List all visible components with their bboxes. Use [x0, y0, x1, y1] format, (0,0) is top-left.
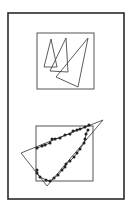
- triangle-3: [56, 38, 88, 87]
- large-triangle: [21, 120, 103, 186]
- path-dot: [76, 129, 79, 132]
- overlapping-triangles: [44, 38, 88, 87]
- path-dot: [83, 142, 86, 145]
- path-dot: [64, 166, 67, 169]
- path-dot: [73, 156, 76, 159]
- path-dot: [36, 147, 39, 150]
- path-dot: [72, 130, 75, 133]
- path-dot: [49, 142, 52, 145]
- path-dot: [54, 138, 57, 141]
- path-dot: [79, 128, 82, 131]
- path-dot: [79, 148, 82, 151]
- path-dot: [53, 177, 56, 180]
- triangle-1: [44, 39, 57, 67]
- path-dot: [36, 169, 39, 172]
- path-dot: [85, 133, 88, 136]
- lower-dotted-path: [37, 130, 88, 181]
- path-dot: [76, 152, 79, 155]
- path-dot: [61, 169, 64, 172]
- path-dot: [57, 174, 60, 177]
- path-dot: [51, 138, 54, 141]
- path-dot: [49, 180, 52, 183]
- path-dot: [45, 179, 48, 182]
- diagram-canvas: [0, 0, 137, 207]
- path-dot: [41, 145, 44, 148]
- dotted-path-points: [36, 124, 91, 183]
- path-dot: [84, 138, 87, 141]
- top-panel: [37, 33, 94, 89]
- path-dot: [36, 172, 39, 175]
- path-dot: [88, 124, 91, 127]
- path-dot: [87, 129, 90, 132]
- path-dot: [59, 137, 62, 140]
- path-dot: [69, 160, 72, 163]
- path-dot: [44, 144, 47, 147]
- path-dot: [69, 133, 72, 136]
- path-dot: [64, 134, 67, 137]
- bottom-panel: [21, 120, 103, 186]
- path-dot: [65, 163, 68, 166]
- path-dot: [39, 176, 42, 179]
- path-dot: [84, 126, 87, 129]
